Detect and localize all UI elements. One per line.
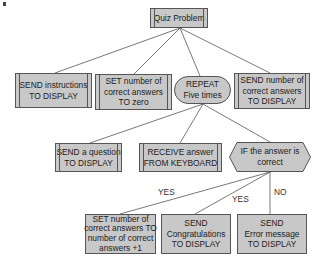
node-set-correct-zero: SET number of correct answers TO zero [95, 74, 172, 110]
node-text: FROM KEYBOARD [144, 158, 218, 169]
node-text: Error message [245, 229, 300, 240]
node-send-instructions: SEND instructions TO DISPLAY [15, 73, 92, 108]
node-text: TO DISPLAY [248, 239, 297, 250]
node-set-correct-increment: SET number of correct answers TO number … [85, 214, 156, 254]
node-text: SEND [184, 218, 207, 229]
node-text: TO zero [118, 97, 148, 108]
node-text: SEND instructions [20, 80, 88, 91]
node-text: IF the answer is [240, 146, 299, 157]
node-if-correct-decision: IF the answer is correct [229, 142, 311, 172]
node-send-number-correct: SEND number of correct answers TO DISPLA… [234, 73, 310, 109]
node-text: SEND number of [240, 75, 303, 86]
structure-chart: Quiz Problem SEND instructions TO DISPLA… [0, 0, 317, 260]
node-text: correct answers [242, 86, 301, 97]
node-text: correct [257, 157, 283, 168]
node-text: correct answers [104, 87, 163, 98]
node-text: TO DISPLAY [29, 91, 78, 102]
node-text: Quiz Problem [154, 13, 205, 24]
node-repeat-loop: REPEAT Five times [174, 76, 231, 104]
node-text: SET number of [105, 76, 161, 87]
node-text: TO DISPLAY [248, 96, 297, 107]
node-text: RECEIVE answer [147, 147, 213, 158]
node-receive-answer: RECEIVE answer FROM KEYBOARD [139, 143, 222, 172]
branch-label-no: NO [274, 187, 287, 197]
node-send-congratulations: SEND Congratulations TO DISPLAY [161, 214, 231, 254]
branch-label-yes-2: YES [232, 194, 249, 204]
node-text: Five times [183, 90, 221, 101]
node-quiz-problem: Quiz Problem [150, 8, 208, 28]
branch-label-yes-1: YES [158, 187, 175, 197]
node-text: SEND [260, 218, 283, 229]
node-text: TO DISPLAY [172, 239, 221, 250]
node-text: SEND a question [56, 147, 120, 158]
node-text: answers +1 [99, 244, 142, 254]
node-send-question: SEND a question TO DISPLAY [55, 143, 122, 172]
node-text: REPEAT [186, 79, 219, 90]
node-text: TO DISPLAY [64, 158, 113, 169]
node-send-error: SEND Error message TO DISPLAY [237, 214, 307, 254]
node-text: Congratulations [167, 229, 226, 240]
